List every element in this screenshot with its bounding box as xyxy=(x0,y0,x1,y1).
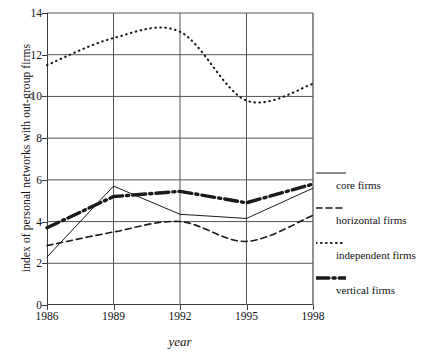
legend-label: horizontal firms xyxy=(336,214,407,226)
plot-area: 0246810121419861989199219951998 xyxy=(47,13,313,305)
y-tick-label: 12 xyxy=(31,49,43,61)
x-tick-label: 1989 xyxy=(102,310,125,322)
legend-label: independent firms xyxy=(336,249,416,261)
legend-swatch-dashed-icon xyxy=(316,203,346,213)
legend-entry-horizontal-firms: horizontal firms xyxy=(316,203,427,233)
y-tick-mark xyxy=(42,263,47,264)
series-line-horizontal-firms xyxy=(47,215,313,245)
y-tick-label: 2 xyxy=(36,257,42,269)
series-lines xyxy=(47,13,313,305)
y-tick-mark xyxy=(42,222,47,223)
legend-label: core firms xyxy=(336,179,381,191)
y-tick-mark xyxy=(42,55,47,56)
legend-entry-core-firms: core firms xyxy=(316,168,427,198)
legend-swatch-thick-dash-dot-icon xyxy=(316,273,346,283)
legend-swatch-thin-solid-icon xyxy=(316,168,346,178)
x-tick-label: 1998 xyxy=(302,310,325,322)
legend-entry-vertical-firms: vertical firms xyxy=(316,273,427,303)
y-tick-label: 10 xyxy=(31,90,43,102)
y-tick-mark xyxy=(42,180,47,181)
series-line-independent-firms xyxy=(47,27,313,102)
y-tick-label: 6 xyxy=(36,174,42,186)
legend-label: vertical firms xyxy=(336,284,395,296)
line-chart-figure: index of personal networks with out-grou… xyxy=(0,0,427,358)
y-tick-mark xyxy=(42,13,47,14)
y-tick-label: 14 xyxy=(31,7,43,19)
x-tick-label: 1992 xyxy=(169,310,192,322)
x-tick-label: 1995 xyxy=(235,310,258,322)
y-tick-mark xyxy=(42,138,47,139)
x-axis-title: year xyxy=(47,334,313,350)
chart-legend: core firmshorizontal firmsindependent fi… xyxy=(316,168,427,303)
y-axis-title: index of personal networks with out-grou… xyxy=(20,28,32,288)
y-tick-label: 8 xyxy=(36,132,42,144)
y-tick-mark xyxy=(42,96,47,97)
legend-entry-independent-firms: independent firms xyxy=(316,238,427,268)
legend-swatch-dotted-icon xyxy=(316,238,346,248)
y-tick-label: 4 xyxy=(36,216,42,228)
x-tick-label: 1986 xyxy=(36,310,59,322)
